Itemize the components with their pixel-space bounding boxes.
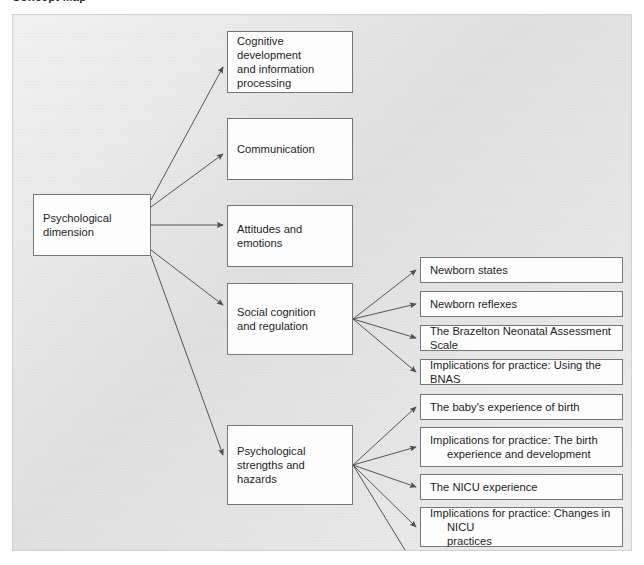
- node-newborn-reflexes: Newborn reflexes: [420, 291, 623, 317]
- connector-root-to-psychological-strengths-and-hazards: [151, 256, 223, 455]
- connector-psychological-strengths-and-hazards-to-baby-experience-of-birth: [353, 407, 416, 465]
- node-label: The NICU experience: [430, 480, 538, 494]
- node-implications-birth-experience: Implications for practice: The birth exp…: [420, 427, 623, 467]
- connector-psychological-strengths-and-hazards-to-multiple-gestation-births: [353, 465, 416, 551]
- connector-social-cognition-and-regulation-to-brazelton-scale: [353, 319, 416, 338]
- node-label: The Brazelton Neonatal Assessment Scale: [430, 324, 613, 352]
- node-label: Newborn reflexes: [430, 297, 517, 311]
- connector-root-to-cognitive-development: [151, 67, 223, 200]
- node-label: Attitudes and emotions: [237, 222, 343, 250]
- connector-psychological-strengths-and-hazards-to-implications-birth-experience: [353, 447, 416, 465]
- connector-social-cognition-and-regulation-to-newborn-states: [353, 270, 416, 319]
- node-label: Communication: [237, 142, 315, 156]
- node-implications-nicu-practices: Implications for practice: Changes in NI…: [420, 507, 623, 547]
- connector-social-cognition-and-regulation-to-newborn-reflexes: [353, 304, 416, 319]
- node-label: Implications for practice: Changes in NI…: [430, 506, 613, 549]
- node-label: Psychological strengths and hazards: [237, 444, 305, 487]
- node-psychological-strengths-and-hazards: Psychological strengths and hazards: [227, 425, 353, 505]
- node-newborn-states: Newborn states: [420, 257, 623, 283]
- node-label: Newborn states: [430, 263, 508, 277]
- node-baby-experience-of-birth: The baby's experience of birth: [420, 394, 623, 420]
- connector-psychological-strengths-and-hazards-to-nicu-experience: [353, 465, 416, 487]
- node-label: Implications for practice: The birth exp…: [430, 433, 598, 461]
- node-communication: Communication: [227, 118, 353, 180]
- node-label: Psychological dimension: [43, 211, 111, 239]
- node-label: Social cognition and regulation: [237, 305, 315, 333]
- node-brazelton-scale: The Brazelton Neonatal Assessment Scale: [420, 325, 623, 351]
- node-label: Cognitive development and information pr…: [237, 34, 343, 91]
- node-root-psychological-dimension: Psychological dimension: [33, 194, 151, 256]
- node-attitudes-and-emotions: Attitudes and emotions: [227, 205, 353, 267]
- figure-caption: Concept Map: [12, 0, 86, 3]
- connector-social-cognition-and-regulation-to-implications-bnas: [353, 319, 416, 372]
- figure-caption-strip: Concept Map: [0, 0, 644, 11]
- concept-map-figure: Psychological dimensionCognitive develop…: [12, 14, 632, 551]
- node-label: The baby's experience of birth: [430, 400, 580, 414]
- node-label: Implications for practice: Using the BNA…: [430, 358, 613, 386]
- node-nicu-experience: The NICU experience: [420, 474, 623, 500]
- connector-root-to-social-cognition-and-regulation: [151, 250, 223, 305]
- node-social-cognition-and-regulation: Social cognition and regulation: [227, 283, 353, 355]
- connector-root-to-communication: [151, 154, 223, 207]
- node-cognitive-development: Cognitive development and information pr…: [227, 31, 353, 93]
- connector-psychological-strengths-and-hazards-to-implications-nicu-practices: [353, 465, 416, 527]
- node-implications-bnas: Implications for practice: Using the BNA…: [420, 359, 623, 385]
